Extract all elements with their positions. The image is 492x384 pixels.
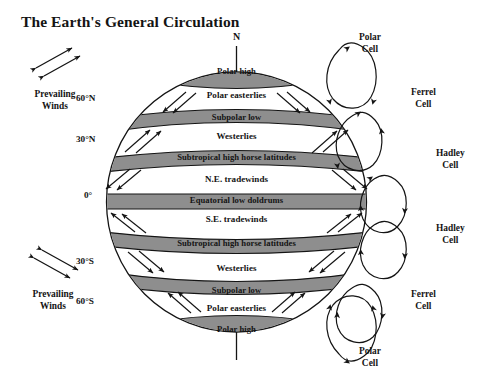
zone-label-polar-easterlies-north: Polar easterlies (207, 90, 266, 100)
latitude-60s: 60°S (76, 296, 94, 306)
prevailing-winds-south-line1: Prevailing (33, 289, 74, 299)
cell-polar-north: Polar Cell (359, 31, 381, 55)
band-label-polar-high-south: Polar high (217, 324, 256, 334)
band-label-equatorial-low: Equatorial low doldrums (190, 195, 283, 205)
cell-polar-north-line1: Polar (359, 32, 381, 42)
band-label-subpolar-low-north: Subpolar low (212, 112, 261, 122)
north-pole-marker: N (233, 31, 240, 42)
loop-ferrel-cell-south (336, 284, 382, 342)
cell-hadley-north: Hadley Cell (436, 147, 465, 171)
prevailing-wind-arrow-s1 (34, 258, 70, 278)
cell-hadley-south: Hadley Cell (436, 222, 465, 246)
cell-hadley-south-line1: Hadley (436, 223, 465, 233)
prevailing-winds-south-line2: Winds (40, 301, 66, 311)
latitude-0: 0° (84, 190, 92, 200)
band-label-subtropical-high-north: Subtropical high horse latitudes (177, 152, 296, 162)
prevailing-winds-south: Prevailing Winds (33, 288, 74, 312)
cell-ferrel-north-line1: Ferrel (411, 87, 436, 97)
prevailing-wind-arrow-n1 (36, 48, 72, 68)
cell-polar-south-line1: Polar (359, 346, 381, 356)
band-label-subpolar-low-south: Subpolar low (212, 285, 261, 295)
prevailing-wind-arrow-n2 (44, 56, 80, 76)
cell-polar-north-line2: Cell (362, 44, 378, 54)
cell-ferrel-south-line1: Ferrel (411, 289, 436, 299)
zone-label-westerlies-north: Westerlies (217, 131, 257, 141)
prevailing-winds-north-line1: Prevailing (35, 89, 76, 99)
latitude-30n: 30°N (76, 134, 96, 144)
diagram-canvas: The Earth's General Circulation (0, 0, 492, 384)
prevailing-wind-arrow-s2 (42, 250, 78, 270)
prevailing-winds-north-line2: Winds (42, 101, 68, 111)
zone-label-polar-easterlies-south: Polar easterlies (207, 303, 266, 313)
latitude-60n: 60°N (76, 93, 96, 103)
cell-ferrel-north-line2: Cell (415, 99, 431, 109)
cell-hadley-north-line2: Cell (442, 160, 458, 170)
zone-label-westerlies-south: Westerlies (217, 263, 257, 273)
prevailing-wind-arrow-group (34, 48, 80, 278)
cell-ferrel-north: Ferrel Cell (411, 86, 436, 110)
cell-polar-south-line2: Cell (362, 358, 378, 368)
cell-ferrel-south-line2: Cell (415, 301, 431, 311)
cell-hadley-south-line2: Cell (442, 235, 458, 245)
loop-hadley-cell-south (360, 221, 406, 278)
cell-polar-south: Polar Cell (359, 345, 381, 369)
cell-ferrel-south: Ferrel Cell (411, 288, 436, 312)
zone-label-ne-tradewinds: N.E. tradewinds (205, 174, 268, 184)
cell-hadley-north-line1: Hadley (436, 148, 465, 158)
band-label-polar-high-north: Polar high (217, 66, 256, 76)
band-label-subtropical-high-south: Subtropical high horse latitudes (177, 238, 296, 248)
latitude-30s: 30°S (76, 256, 94, 266)
loop-hadley-cell-north (360, 175, 406, 232)
zone-label-se-tradewinds: S.E. tradewinds (206, 214, 268, 224)
prevailing-winds-north: Prevailing Winds (35, 88, 76, 112)
